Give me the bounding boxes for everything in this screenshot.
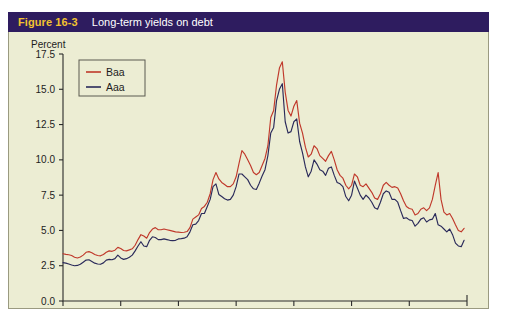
line-chart: Percent 0.02.55.07.510.012.515.017.5 194… [9,32,488,307]
y-tick-label: 0.0 [41,296,55,307]
figure-number: Figure 16-3 [18,16,78,28]
figure-title: Long-term yields on debt [92,16,213,28]
y-tick-label: 15.0 [36,84,56,95]
y-axis-ticks: 0.02.55.07.510.012.515.017.5 [36,49,63,307]
y-tick-label: 17.5 [36,49,56,60]
figure-body: Percent 0.02.55.07.510.012.515.017.5 194… [8,32,489,309]
legend-label-aaa: Aaa [106,81,125,93]
y-tick-label: 10.0 [36,154,56,165]
series-line-aaa [63,84,464,266]
y-tick-label: 7.5 [41,190,55,201]
y-tick-label: 12.5 [36,119,56,130]
figure-container: Figure 16-3 Long-term yields on debt Per… [8,12,489,309]
legend-label-baa: Baa [106,66,125,78]
x-axis-ticks: 19441954196419741984199420042014 [52,301,479,307]
figure-header: Figure 16-3 Long-term yields on debt [8,12,489,32]
y-tick-label: 2.5 [41,260,55,271]
y-tick-label: 5.0 [41,225,55,236]
chart-legend: BaaAaa [79,60,145,96]
